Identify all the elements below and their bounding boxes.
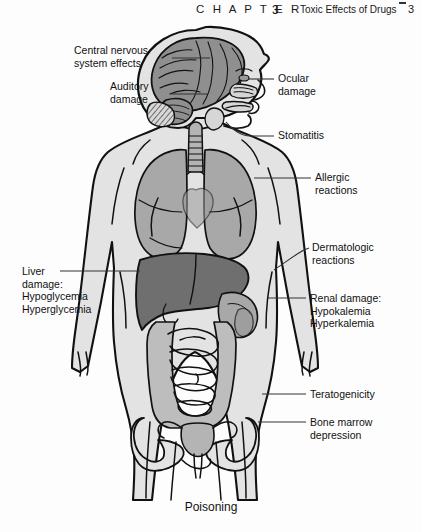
label-line: Stomatitis <box>278 129 324 142</box>
label-line: damage <box>278 85 316 98</box>
label-teratogenicity: Teratogenicity <box>310 388 375 401</box>
label-stomatitis: Stomatitis <box>278 129 324 142</box>
label-line: Teratogenicity <box>310 388 375 401</box>
label-line: Bone marrow <box>310 416 372 429</box>
label-line: damage <box>110 93 149 106</box>
label-line: Hypoglycemia <box>22 290 91 303</box>
label-allergic-reactions: Allergic reactions <box>315 171 358 196</box>
label-line: reactions <box>312 254 374 267</box>
label-dermatologic-reactions: Dermatologic reactions <box>312 241 374 266</box>
pubic-symphysis <box>182 459 211 469</box>
page-number: 3 <box>408 3 414 15</box>
chapter-word: C H A P T E R <box>196 3 302 15</box>
label-line: Auditory <box>110 80 149 93</box>
chapter-number: 3 <box>272 3 279 17</box>
label-line: Hyperglycemia <box>22 303 91 316</box>
label-renal-damage: Renal damage: Hypokalemia Hyperkalemia <box>310 292 381 330</box>
pharynx <box>205 108 224 130</box>
nasal-passage <box>230 84 257 98</box>
page-dash <box>399 2 406 4</box>
label-line: damage: <box>22 278 91 291</box>
label-line: reactions <box>315 184 358 197</box>
label-line: Allergic <box>315 171 358 184</box>
anatomy-figure: Central nervous system effects Auditory … <box>0 22 422 532</box>
uterus <box>181 423 214 457</box>
label-line: Hyperkalemia <box>310 317 381 330</box>
kidney-right <box>235 308 253 336</box>
figure-page: C H A P T E R 3 Toxic Effects of Drugs 3 <box>0 0 422 532</box>
figure-caption: Poisoning <box>0 500 422 514</box>
label-bone-marrow-depression: Bone marrow depression <box>310 416 372 441</box>
label-auditory-damage: Auditory damage <box>110 80 149 105</box>
label-line: Dermatologic <box>312 241 374 254</box>
label-central-nervous-system-effects: Central nervous system effects <box>74 44 148 69</box>
vagina <box>194 454 202 478</box>
label-line: Hypokalemia <box>310 305 381 318</box>
label-line: Ocular <box>278 72 316 85</box>
eye <box>239 75 249 81</box>
label-line: Renal damage: <box>310 292 381 305</box>
label-line: depression <box>310 429 372 442</box>
trachea <box>188 122 203 172</box>
label-ocular-damage: Ocular damage <box>278 72 316 97</box>
header-title: Toxic Effects of Drugs <box>300 4 397 15</box>
label-line: system effects <box>74 57 148 70</box>
label-line: Liver <box>22 265 91 278</box>
label-line: Central nervous <box>74 44 148 57</box>
label-liver-damage: Liver damage: Hypoglycemia Hyperglycemia <box>22 265 91 315</box>
running-header: C H A P T E R 3 Toxic Effects of Drugs 3 <box>0 0 422 22</box>
